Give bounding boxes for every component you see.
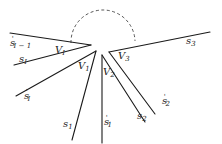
wedge-diagram: s'I − 1 VI sI V1 s'I V2 V3 s1 s'1 s2 s'2… [0, 0, 222, 144]
label-V-2: V2 [103, 66, 115, 79]
label-s-3: s3 [186, 35, 196, 48]
label-s-1: s1 [63, 118, 73, 131]
label-V-I: VI [55, 44, 65, 57]
label-s-prime-1: s'1 [104, 114, 112, 129]
label-s-I: sI [19, 53, 27, 66]
label-s-prime-2: s'2 [162, 93, 171, 108]
label-V-3: V3 [118, 50, 130, 63]
label-s-prime-I: s'I [24, 88, 31, 103]
label-s-prime-I-minus-1: s'I − 1 [10, 35, 31, 50]
ray-s-prime-2 [109, 52, 155, 114]
dashed-arc [71, 10, 135, 43]
label-s-2: s2 [137, 110, 147, 123]
label-V-1: V1 [78, 60, 90, 73]
